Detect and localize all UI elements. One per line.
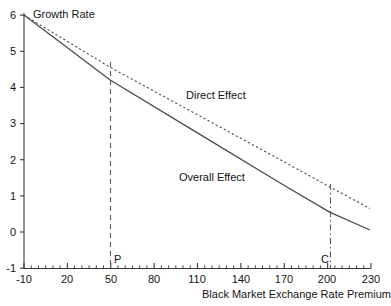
y-tick-label-0: 0: [0, 227, 16, 238]
x-tick-label-110: 110: [180, 274, 214, 285]
x-tick-label-200: 200: [310, 274, 344, 285]
x-tick-label-20: 20: [50, 274, 84, 285]
y-axis-title: Growth Rate: [33, 9, 95, 20]
series-overall-effect: [24, 15, 370, 230]
y-tick-label-3: 3: [0, 118, 16, 129]
y-tick-label-1: 1: [0, 191, 16, 202]
y-tick-label-4: 4: [0, 82, 16, 93]
x-axis-ticks: [24, 263, 371, 269]
x-tick-label-170: 170: [267, 274, 301, 285]
x-tick-label-neg10: -10: [7, 274, 41, 285]
y-tick-label-5: 5: [0, 46, 16, 57]
marker-label-c: C: [321, 254, 329, 265]
x-tick-label-50: 50: [94, 274, 128, 285]
series-label-direct-effect: Direct Effect: [186, 90, 246, 101]
y-tick-label-2: 2: [0, 155, 16, 166]
y-tick-label-6: 6: [0, 10, 16, 21]
x-tick-label-140: 140: [224, 274, 258, 285]
x-tick-label-80: 80: [137, 274, 171, 285]
y-tick-label-neg1: -1: [0, 263, 16, 274]
marker-label-p: P: [114, 254, 121, 265]
y-axis-ticks: [20, 15, 24, 268]
series-label-overall-effect: Overall Effect: [179, 172, 245, 183]
x-tick-label-230: 230: [354, 274, 388, 285]
x-axis-title: Black Market Exchange Rate Premium: [202, 289, 391, 300]
